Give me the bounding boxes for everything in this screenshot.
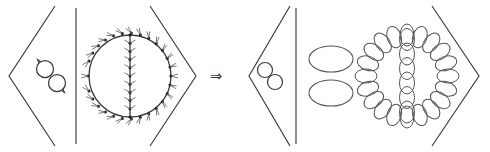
upper-ellipse-icon — [309, 46, 353, 72]
lower-ellipse-icon — [309, 80, 353, 106]
left-bracket-expression — [9, 6, 196, 146]
theta-graph-thickened — [355, 24, 459, 128]
implies-arrow-icon: ⇒ — [210, 67, 223, 85]
lower-circle-icon — [268, 75, 283, 90]
lower-circle-icon — [49, 75, 66, 92]
theta-boundary-bead-chain — [355, 24, 459, 128]
diagram-svg: ⇒ — [0, 0, 490, 152]
right-bracket-expression — [249, 6, 479, 146]
theta-graph-directed — [81, 27, 178, 125]
double-circle-plain-graph — [258, 63, 283, 90]
upper-circle-icon — [258, 63, 273, 78]
stacked-ellipse-pair — [309, 46, 353, 106]
right-close-angle-bracket-icon — [432, 6, 479, 146]
diagram-canvas: ⇒ — [0, 0, 490, 152]
left-open-angle-bracket-icon — [9, 6, 55, 146]
left-close-angle-bracket-icon — [150, 6, 196, 146]
upper-circle-icon — [37, 61, 54, 78]
double-circle-directed-graph — [37, 60, 66, 93]
